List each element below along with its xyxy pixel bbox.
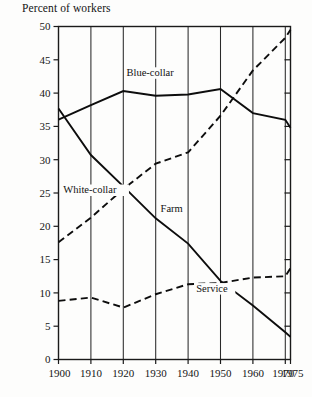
series-line-service xyxy=(59,268,291,307)
y-axis-tick-label: 30 xyxy=(40,154,52,166)
series-label-service: Service xyxy=(196,283,228,294)
x-axis-tick-label: 1930 xyxy=(145,367,168,379)
line-chart-plot: 05101520253035404550 1900191019201930194… xyxy=(0,0,312,397)
series-line-blue-collar xyxy=(59,89,291,128)
x-axis-tick-label: 1960 xyxy=(242,367,265,379)
y-axis-tick-label: 45 xyxy=(40,54,52,66)
x-axis-tick-label: 1910 xyxy=(80,367,103,379)
y-axis-tick-label: 35 xyxy=(40,120,52,132)
series-label-farm: Farm xyxy=(161,203,183,214)
y-axis-ticks-group xyxy=(54,27,59,360)
series-label-blue-collar: Blue-collar xyxy=(127,67,175,78)
y-axis-tick-label: 25 xyxy=(40,187,52,199)
x-axis-tick-label: 1900 xyxy=(49,367,72,379)
y-axis-tick-label: 5 xyxy=(45,320,51,332)
x-axis-tick-label: 1975 xyxy=(282,367,305,379)
y-axis-tick-label: 0 xyxy=(45,353,51,365)
y-axis-tick-label: 50 xyxy=(40,20,52,32)
y-axis-tick-label: 15 xyxy=(40,253,52,265)
y-axis-tick-label: 40 xyxy=(40,87,52,99)
series-line-farm xyxy=(59,108,291,336)
y-axis-tick-label: 10 xyxy=(40,287,52,299)
series-labels-group: Blue-collarWhite-collarFarmService xyxy=(61,67,235,295)
y-axis-tick-label: 20 xyxy=(40,220,52,232)
series-label-white-collar: White-collar xyxy=(63,184,117,195)
x-axis-tick-label: 1940 xyxy=(177,367,200,379)
x-axis-labels-group: 190019101920193019401950196019701975 xyxy=(49,367,305,379)
y-axis-labels-group: 05101520253035404550 xyxy=(40,20,52,365)
x-axis-tick-label: 1950 xyxy=(210,367,233,379)
chart-page: Percent of workers 05101520253035404550 … xyxy=(0,0,312,397)
x-axis-tick-label: 1920 xyxy=(112,367,135,379)
